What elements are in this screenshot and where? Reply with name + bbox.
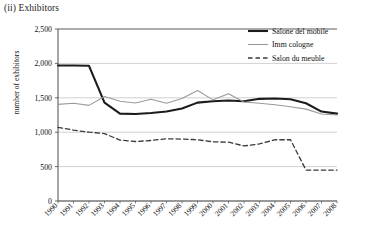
series-line-0 xyxy=(58,65,337,114)
legend-label-0: Salone del mobile xyxy=(272,27,329,36)
x-tick-label: 1996 xyxy=(135,201,152,218)
x-tick-label: 2001 xyxy=(213,201,230,218)
x-tick-label: 2000 xyxy=(197,201,214,218)
x-tick-label: 2002 xyxy=(228,201,245,218)
x-tick-label: 1998 xyxy=(166,201,183,218)
y-tick-label: 2,500 xyxy=(34,25,52,34)
x-tick-label: 1997 xyxy=(151,201,168,218)
x-tick-label: 1995 xyxy=(120,201,137,218)
x-tick-label: 1993 xyxy=(89,201,106,218)
y-tick-label: 500 xyxy=(40,163,52,172)
line-chart-svg: 05001,0001,5002,0002,500 199019911992199… xyxy=(0,0,370,241)
x-tick-label: 2004 xyxy=(259,201,276,218)
x-tick-label: 2008 xyxy=(321,201,338,218)
plot-area: 05001,0001,5002,0002,500 199019911992199… xyxy=(0,0,370,241)
x-tick-label: 2006 xyxy=(290,201,307,218)
y-tick-label: 1,000 xyxy=(34,128,52,137)
x-tick-label: 1992 xyxy=(73,201,90,218)
x-tick-label: 1991 xyxy=(58,201,75,218)
data-series xyxy=(58,65,337,170)
x-tick-label: 2007 xyxy=(306,201,323,218)
x-tick-labels: 1990199119921993199419951996199719981999… xyxy=(42,201,338,218)
chart-legend: Salone del mobileImm cologneSalon du meu… xyxy=(248,27,329,63)
x-tick-label: 2003 xyxy=(244,201,261,218)
x-tick-label: 1999 xyxy=(182,201,199,218)
y-tick-label: 2,000 xyxy=(34,59,52,68)
series-line-2 xyxy=(58,127,337,170)
legend-label-2: Salon du meuble xyxy=(272,54,325,63)
x-tick-label: 1990 xyxy=(42,201,59,218)
y-tick-label: 1,500 xyxy=(34,94,52,103)
legend-label-1: Imm cologne xyxy=(272,40,314,49)
x-tick-label: 2005 xyxy=(275,201,292,218)
y-tick-labels: 05001,0001,5002,0002,500 xyxy=(34,25,58,206)
x-tick-label: 1994 xyxy=(104,201,121,218)
figure-exhibitors: (ii) Exhibitors number of exhibitors 050… xyxy=(0,0,370,241)
